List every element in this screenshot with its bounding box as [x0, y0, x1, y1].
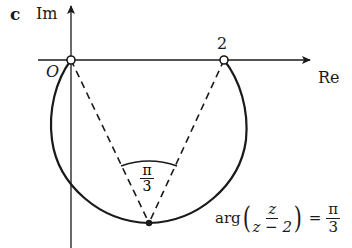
- dashed-chord-left: [71, 60, 149, 223]
- fraction-denominator: z − 2: [252, 219, 292, 236]
- origin-label: O: [46, 64, 59, 80]
- panel-label: c: [10, 6, 20, 23]
- left-paren: (: [242, 203, 250, 233]
- point-two-label: 2: [217, 36, 227, 52]
- rhs-numerator: π: [326, 201, 340, 219]
- locus-arc: [51, 60, 247, 223]
- fraction-numerator: z: [266, 201, 278, 219]
- origin-open-point: [67, 56, 75, 64]
- equation-fraction: z z − 2: [252, 201, 292, 235]
- angle-numerator: π: [140, 163, 153, 179]
- imaginary-axis-label: Im: [36, 6, 58, 22]
- rhs-denominator: 3: [328, 219, 338, 236]
- equals-sign: =: [309, 209, 322, 227]
- right-paren: ): [294, 203, 302, 233]
- angle-denominator: 3: [143, 179, 152, 194]
- angle-label: π 3: [132, 163, 162, 195]
- bottom-filled-point: [146, 220, 152, 226]
- real-axis-label: Re: [318, 70, 340, 86]
- rhs-fraction: π 3: [326, 201, 340, 235]
- arg-function: arg: [215, 209, 241, 227]
- point-two-open-point: [220, 56, 228, 64]
- locus-equation: arg ( z z − 2 ) = π 3: [215, 201, 340, 235]
